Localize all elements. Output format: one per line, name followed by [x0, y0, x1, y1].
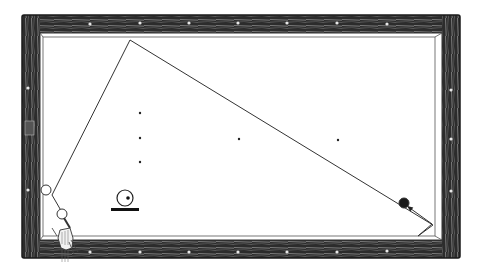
rail-diamond — [449, 88, 452, 91]
table-frame — [22, 15, 460, 258]
rail-diamond — [26, 188, 29, 191]
diagram-canvas — [0, 0, 477, 271]
rail-diamond — [285, 250, 288, 253]
rail-diamond — [236, 250, 239, 253]
rail-bottom — [22, 240, 460, 258]
rail-diamond — [385, 22, 388, 25]
rail-right — [442, 15, 460, 258]
spot — [139, 112, 141, 114]
target-ball — [399, 198, 409, 208]
playing-surface — [43, 37, 435, 236]
rail-diamond — [335, 250, 338, 253]
rail-top — [22, 15, 460, 33]
billiard-diagram — [0, 0, 477, 271]
rail-diamond — [187, 21, 190, 24]
rail-diamond — [449, 189, 452, 192]
rail-diamond — [285, 21, 288, 24]
rail-diamond — [449, 137, 452, 140]
rail-diamond — [187, 250, 190, 253]
rail-diamond — [385, 249, 388, 252]
english-contact-dot — [126, 196, 130, 200]
object-ball-left — [41, 185, 51, 195]
cue-ball — [57, 209, 67, 219]
rail-diamond — [88, 22, 91, 25]
rail-nameplate — [25, 121, 34, 135]
rail-left — [22, 15, 40, 258]
english-base-bar — [111, 208, 139, 211]
rail-diamond — [138, 21, 141, 24]
rail-diamond — [88, 250, 91, 253]
spot — [139, 137, 141, 139]
rail-diamond — [26, 86, 29, 89]
rail-diamond — [335, 21, 338, 24]
spot — [238, 138, 240, 140]
english-ball — [117, 190, 133, 206]
spot — [337, 139, 339, 141]
rail-diamond — [138, 250, 141, 253]
spot — [139, 161, 141, 163]
rail-diamond — [236, 21, 239, 24]
